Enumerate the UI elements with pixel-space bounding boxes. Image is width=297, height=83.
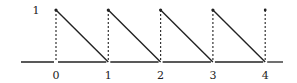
x-tick-label: 2	[157, 69, 164, 82]
filled-point	[54, 8, 57, 11]
dashed-verticals	[56, 10, 265, 62]
sawtooth-segment	[161, 10, 213, 62]
endpoint-markers	[54, 8, 266, 11]
isolated-point	[264, 9, 267, 12]
x-tick-label: 4	[262, 69, 269, 82]
y-label-one: 1	[33, 4, 40, 17]
x-tick-label: 1	[105, 69, 112, 82]
sawtooth-segment	[213, 10, 265, 62]
sawtooth-segment	[108, 10, 160, 62]
x-tick-label: 3	[209, 69, 216, 82]
sawtooth-segment	[56, 10, 108, 62]
sawtooth-diagram: 1 01234	[0, 0, 297, 83]
x-tick-labels: 01234	[53, 69, 269, 82]
filled-point	[211, 8, 214, 11]
filled-point	[107, 8, 110, 11]
x-tick-label: 0	[53, 69, 60, 82]
filled-point	[159, 8, 162, 11]
